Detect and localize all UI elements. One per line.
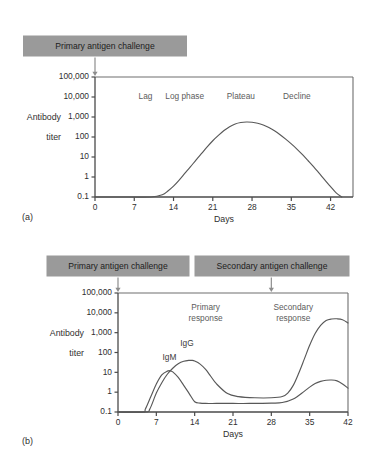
x-tick-label: 21 <box>228 417 238 427</box>
response-label-line2: response <box>276 313 311 323</box>
y-tick-label: 100 <box>98 347 112 357</box>
curve-label-igg: IgG <box>180 338 193 348</box>
response-label-line1: Secondary <box>273 302 314 312</box>
y-tick-label: 10 <box>80 151 90 161</box>
y-axis-title-line1: Antibody <box>50 328 85 338</box>
curve-labels: IgMIgG <box>163 338 194 361</box>
banner-arrow-1 <box>92 58 97 77</box>
x-tick-label: 14 <box>169 202 179 212</box>
x-tick-label: 35 <box>287 202 297 212</box>
y-tick-label: 10,000 <box>86 307 112 317</box>
x-tick-group: 071421283542 <box>93 197 336 212</box>
y-tick-label: 100,000 <box>59 71 90 81</box>
x-tick-label: 21 <box>208 202 218 212</box>
y-tick-label: 0.1 <box>100 406 112 416</box>
antibody-response-figure: Primary antigen challenge0.11101001,0001… <box>0 0 372 462</box>
x-tick-group: 071421283542 <box>116 412 353 427</box>
x-tick-label: 42 <box>326 202 336 212</box>
axis-titles: DaysAntibodytiter <box>50 328 244 439</box>
axis-titles: DaysAntibodytiter <box>27 112 235 224</box>
response-labels: PrimaryresponseSecondaryresponse <box>189 302 314 323</box>
y-tick-label: 1,000 <box>91 327 112 337</box>
x-tick-label: 0 <box>116 417 121 427</box>
response-label-line1: Primary <box>191 302 220 312</box>
y-tick-label: 1,000 <box>68 111 89 121</box>
x-axis-title: Days <box>223 429 244 439</box>
y-axis-title-line1: Antibody <box>27 112 62 122</box>
y-tick-label: 10,000 <box>63 91 89 101</box>
banner-1: Primary antigen challenge <box>23 36 187 57</box>
phase-label-log-phase: Log phase <box>165 91 204 101</box>
banner-1-label: Primary antigen challenge <box>55 41 155 51</box>
x-tick-label: 28 <box>247 202 257 212</box>
y-tick-label: 10 <box>103 367 113 377</box>
banner-2: Secondary antigen challenge <box>195 256 350 277</box>
phase-label-plateau: Plateau <box>227 91 256 101</box>
phase-label-lag: Lag <box>139 91 153 101</box>
y-tick-group: 0.11101001,00010,000100,000 <box>82 287 118 416</box>
curve-igm <box>118 371 348 413</box>
x-tick-label: 14 <box>190 417 200 427</box>
response-label-line2: response <box>189 313 224 323</box>
panel-caption: (a) <box>22 212 33 222</box>
panel-caption: (b) <box>22 436 33 446</box>
plot-frame <box>95 77 353 197</box>
x-tick-label: 42 <box>343 417 353 427</box>
y-tick-label: 1 <box>107 386 112 396</box>
phase-label-decline: Decline <box>283 91 311 101</box>
banner-arrow-1 <box>115 278 120 293</box>
y-tick-label: 1 <box>84 171 89 181</box>
x-tick-label: 7 <box>154 417 159 427</box>
y-tick-label: 0.1 <box>77 191 89 201</box>
panel-b: Primary antigen challengeSecondary antig… <box>0 240 372 462</box>
panel-a: Primary antigen challenge0.11101001,0001… <box>0 0 372 240</box>
x-tick-label: 35 <box>305 417 315 427</box>
curve-group <box>95 122 342 197</box>
x-tick-label: 7 <box>132 202 137 212</box>
phase-labels: LagLog phasePlateauDecline <box>139 91 312 101</box>
curve-group <box>118 319 348 412</box>
curve-antibody-titer <box>95 122 342 197</box>
banner-arrow-2 <box>269 278 274 293</box>
y-tick-group: 0.11101001,00010,000100,000 <box>59 71 95 201</box>
banner-1-label: Primary antigen challenge <box>68 261 168 271</box>
x-tick-label: 0 <box>93 202 98 212</box>
x-tick-label: 28 <box>267 417 277 427</box>
y-tick-label: 100,000 <box>82 287 113 297</box>
x-axis-title: Days <box>214 214 235 224</box>
banner-1: Primary antigen challenge <box>47 256 190 277</box>
y-tick-label: 100 <box>75 131 89 141</box>
curve-label-igm: IgM <box>163 352 177 362</box>
curve-igg <box>118 319 348 412</box>
banner-2-label: Secondary antigen challenge <box>217 261 328 271</box>
y-axis-title-line2: titer <box>46 132 61 142</box>
y-axis-title-line2: titer <box>69 348 84 358</box>
